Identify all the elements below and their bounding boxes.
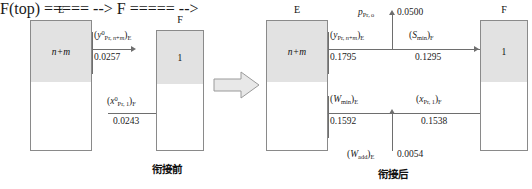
value-smin-f: 0.1295 bbox=[415, 53, 441, 63]
symbol-p-pro: pPr, o bbox=[358, 8, 374, 18]
value-x0-pr1-f: 0.0243 bbox=[113, 117, 139, 127]
column-header-f-after: F bbox=[478, 4, 530, 15]
column-f-after-segment-label: 1 bbox=[502, 47, 507, 57]
leader-line-ppro-vertical bbox=[392, 14, 393, 49]
caption-before: 衔接前 bbox=[152, 161, 182, 176]
leader-line-e-after-top-vertical bbox=[328, 32, 329, 74]
arrowhead-wadd bbox=[389, 109, 395, 114]
column-e-before: n+m bbox=[30, 20, 92, 151]
column-e-after: n+m bbox=[266, 20, 328, 151]
column-e-before-top-segment: n+m bbox=[31, 21, 91, 83]
column-f-after: 1 bbox=[480, 20, 528, 151]
leader-line-f-before-horizontal bbox=[108, 113, 156, 114]
column-f-before-segment-label: 1 bbox=[178, 53, 183, 63]
value-y-prnm-e: 0.1795 bbox=[330, 53, 356, 63]
column-header-f-before: F bbox=[154, 14, 206, 25]
column-f-before: 1 bbox=[156, 30, 204, 151]
value-wadd-e: 0.0054 bbox=[397, 150, 423, 160]
symbol-x-pr1-f: (xPr, 1)F bbox=[416, 95, 442, 105]
symbol-x0-pr1-f: (x0Pr, 1)F bbox=[107, 97, 136, 107]
stream-line-top bbox=[328, 49, 480, 50]
column-f-after-top-segment: 1 bbox=[481, 21, 527, 83]
transition-arrow-icon bbox=[213, 70, 261, 100]
arrowhead-ppro bbox=[389, 10, 395, 15]
process-flow-diagram: E n+m (y0Pr, n+m)E 0.0257 F 1 (x0Pr, 1)F… bbox=[0, 0, 532, 189]
leader-line-e-before-horizontal bbox=[92, 49, 134, 50]
leader-line-e-before-vertical bbox=[92, 32, 93, 74]
column-e-before-segment-label: n+m bbox=[52, 47, 71, 57]
symbol-wadd-e: (Wadd)E bbox=[347, 150, 374, 160]
caption-after: 衔接后 bbox=[378, 166, 408, 181]
stream-line-bottom bbox=[328, 113, 480, 114]
value-p-pro: 0.0500 bbox=[397, 8, 423, 18]
column-e-after-top-segment: n+m bbox=[267, 21, 327, 83]
value-wmin-e: 0.1592 bbox=[330, 117, 356, 127]
column-header-e-after: E bbox=[264, 4, 330, 15]
column-e-after-segment-label: n+m bbox=[288, 47, 307, 57]
column-header-e-before: E bbox=[28, 4, 94, 15]
leader-line-e-after-bottom-vertical bbox=[328, 96, 329, 138]
column-f-after-bottom-segment bbox=[481, 82, 527, 150]
symbol-smin-f: (Smin)F bbox=[409, 31, 434, 41]
column-e-after-bottom-segment bbox=[267, 82, 327, 150]
column-f-before-bottom-segment bbox=[157, 84, 203, 150]
symbol-wmin-e: (Wmin)E bbox=[330, 95, 358, 105]
column-f-before-top-segment: 1 bbox=[157, 31, 203, 85]
leader-line-wadd-vertical bbox=[392, 113, 393, 151]
value-x-pr1-f: 0.1538 bbox=[421, 117, 447, 127]
value-y0-prnm-e: 0.0257 bbox=[94, 53, 120, 63]
symbol-y0-prnm-e: (y0Pr, n+m)E bbox=[94, 31, 131, 41]
arrowhead-top-stream bbox=[474, 46, 479, 52]
symbol-y-prnm-e: (yPr, n+m)E bbox=[330, 31, 364, 41]
arrowhead-e-before bbox=[131, 46, 136, 52]
column-e-before-bottom-segment bbox=[31, 82, 91, 150]
